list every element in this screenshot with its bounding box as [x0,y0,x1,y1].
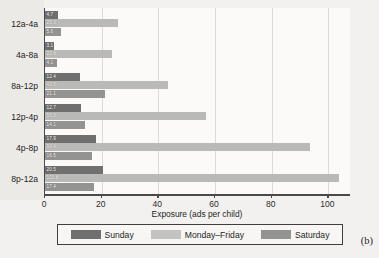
bar: 43.5 [45,81,168,89]
bar-value-label: 56.8 [47,112,56,120]
x-tick-label: 40 [153,199,162,209]
bar: 17.4 [45,183,94,191]
legend-swatch [261,230,291,239]
legend-label: Sunday [105,230,134,240]
bar-group: 20.5103.817.4 [45,166,350,191]
x-tick-label: 0 [42,199,47,209]
bar: 14.1 [45,121,85,129]
bar: 103.8 [45,174,339,182]
bar-value-label: 21.1 [47,90,56,98]
legend-item: Sunday [71,230,134,240]
y-tick-label: 4a-8a [16,50,38,60]
bar: 4.1 [45,59,57,67]
x-tick-label: 20 [96,199,105,209]
y-tick-label: 4p-8p [16,143,38,153]
x-tick [271,194,272,198]
legend-swatch [151,230,181,239]
y-tick-label: 8a-12p [11,81,38,91]
legend-swatch [71,230,101,239]
x-tick [327,194,328,198]
y-axis-labels: 12a-4a4a-8a8a-12p12p-4p4p-8p8p-12a [0,8,41,194]
bar-value-label: 12.4 [47,73,56,81]
bar: 17.9 [45,135,96,143]
x-tick [157,194,158,198]
bar: 4.7 [45,11,58,19]
legend-item: Monday–Friday [151,230,244,240]
bar: 23.8 [45,50,112,58]
bar: 5.6 [45,28,61,36]
plot-area: 4.725.95.63.123.84.112.443.521.112.756.8… [44,8,350,194]
y-tick-label: 8p-12a [11,174,38,184]
bar-value-label: 17.4 [47,183,56,191]
bar-value-label: 14.1 [47,121,56,129]
legend-label: Monday–Friday [185,230,244,240]
x-tick [44,194,45,198]
bar-value-label: 5.6 [47,28,54,36]
bar-value-label: 23.8 [47,50,56,58]
bar-value-label: 4.1 [47,59,54,67]
bar-value-label: 25.9 [47,19,56,27]
figure-panel: 4.725.95.63.123.84.112.443.521.112.756.8… [0,0,379,258]
bar: 12.4 [45,73,80,81]
y-tick-label: 12a-4a [11,19,38,29]
x-tick-label: 100 [320,199,334,209]
bar-group: 12.443.521.1 [45,73,350,98]
bar-group: 17.993.416.5 [45,135,350,160]
bar-value-label: 43.5 [47,81,56,89]
x-tick [214,194,215,198]
x-axis-line [44,194,350,196]
bar: 25.9 [45,19,118,27]
bar: 21.1 [45,90,105,98]
bar-value-label: 20.5 [47,166,56,174]
bar-group: 12.756.814.1 [45,104,350,129]
y-tick-label: 12p-4p [11,112,38,122]
bar-group: 3.123.84.1 [45,42,350,67]
chart-legend: SundayMonday–FridaySaturday [57,224,343,245]
legend-item: Saturday [261,230,329,240]
bar-value-label: 16.5 [47,152,56,160]
bar: 16.5 [45,152,92,160]
x-tick-label: 80 [266,199,275,209]
bar-value-label: 12.7 [47,104,56,112]
bar-group: 4.725.95.6 [45,11,350,36]
x-axis-title: Exposure (ads per child) [44,209,350,219]
bar: 12.7 [45,104,81,112]
bar-value-label: 103.8 [47,174,59,182]
bar-value-label: 3.1 [47,42,54,50]
bar-value-label: 4.7 [47,11,54,19]
bars-container: 4.725.95.63.123.84.112.443.521.112.756.8… [45,8,350,194]
x-tick [101,194,102,198]
bar: 93.4 [45,143,310,151]
bar: 56.8 [45,112,206,120]
bar: 20.5 [45,166,103,174]
bar-value-label: 93.4 [47,143,56,151]
bar: 3.1 [45,42,54,50]
x-tick-label: 60 [209,199,218,209]
legend-label: Saturday [295,230,329,240]
panel-label: (b) [361,235,373,246]
bar-value-label: 17.9 [47,135,56,143]
